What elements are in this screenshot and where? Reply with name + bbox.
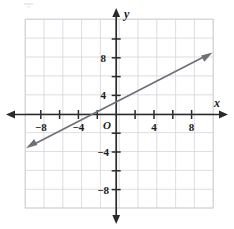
y-axis-label: y: [122, 7, 130, 21]
x-tick-label-8: 8: [189, 121, 195, 133]
grid-lines: [25, 19, 213, 208]
y-axis-arrow-up: [112, 8, 120, 17]
y-tick-label-neg4: −4: [97, 146, 109, 158]
coordinate-graph-figure: y x O −8 −4 4 8 8 4 −4 −8: [0, 0, 234, 229]
x-axis-arrow-right: [219, 111, 228, 119]
line-arrow-lower-left: [26, 139, 37, 148]
x-tick-label-neg8: −8: [35, 121, 47, 133]
origin-label: O: [103, 119, 111, 131]
x-tick-label-neg4: −4: [73, 121, 85, 133]
graph-canvas: y x O −8 −4 4 8 8 4 −4 −8: [0, 0, 234, 229]
x-axis-label: x: [213, 96, 220, 110]
x-tick-label-4: 4: [151, 121, 157, 133]
x-axis-arrow-left: [6, 111, 15, 119]
y-tick-label-4: 4: [101, 89, 107, 101]
y-tick-label-neg8: −8: [97, 184, 109, 196]
y-tick-label-8: 8: [101, 52, 107, 64]
scan-artifact: [24, 3, 33, 8]
y-axis-arrow-down: [112, 215, 120, 224]
